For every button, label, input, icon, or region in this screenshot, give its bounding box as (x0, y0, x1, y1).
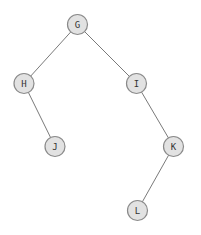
node-label: J (52, 142, 57, 152)
edges (28, 32, 168, 202)
edge-h-j (28, 92, 50, 137)
edge-g-h (31, 32, 71, 76)
node-l: L (128, 201, 148, 221)
node-label: I (134, 79, 139, 89)
node-k: K (164, 137, 184, 157)
node-label: L (135, 206, 140, 216)
node-label: G (75, 20, 80, 30)
edge-i-k (142, 92, 169, 138)
node-j: J (45, 137, 65, 157)
node-label: H (21, 79, 26, 89)
edge-g-i (85, 32, 130, 77)
node-label: K (171, 142, 177, 152)
tree-diagram: G H I J K L (0, 0, 201, 235)
edge-k-l (142, 155, 168, 202)
node-h: H (14, 74, 34, 94)
node-i: I (127, 74, 147, 94)
node-g: G (68, 15, 88, 35)
